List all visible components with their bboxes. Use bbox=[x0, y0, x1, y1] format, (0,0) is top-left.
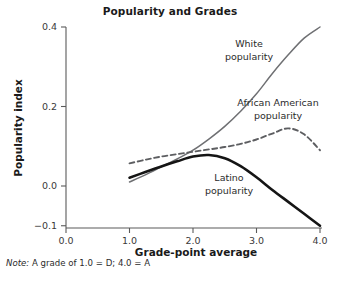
x-tick-group: 0.01.02.03.04.0 bbox=[58, 228, 327, 246]
x-tick-label: 2.0 bbox=[185, 235, 200, 246]
y-axis-title: Popularity index bbox=[12, 79, 24, 177]
series-label-latino-line1: Latino bbox=[214, 172, 243, 183]
chart-note: Note: A grade of 1.0 = D; 4.0 = A bbox=[6, 258, 150, 268]
x-tick-label: 4.0 bbox=[312, 235, 327, 246]
series-label-latino-line2: popularity bbox=[205, 185, 254, 196]
chart-note-prefix: Note: bbox=[6, 258, 29, 268]
y-tick-label: 0.0 bbox=[42, 180, 57, 191]
chart-figure: Popularity and Grades 0.40.20.0−0.1 0.01… bbox=[0, 0, 340, 285]
series-label-african-american-line2: popularity bbox=[254, 110, 303, 121]
series-label-white-line1: White bbox=[235, 38, 263, 49]
x-tick-label: 0.0 bbox=[58, 235, 73, 246]
chart-plot-area: 0.40.20.0−0.1 0.01.02.03.04.0 Popularity… bbox=[0, 0, 340, 285]
chart-note-text: A grade of 1.0 = D; 4.0 = A bbox=[29, 258, 150, 268]
y-tick-label: −0.1 bbox=[34, 220, 57, 231]
x-axis-title: Grade-point average bbox=[135, 246, 257, 258]
y-tick-label: 0.4 bbox=[42, 21, 57, 32]
y-tick-group: 0.40.20.0−0.1 bbox=[34, 21, 66, 231]
series-label-african-american-line1: African American bbox=[237, 97, 318, 108]
x-tick-label: 3.0 bbox=[249, 235, 264, 246]
bottom-bleed-text bbox=[44, 279, 84, 285]
y-tick-label: 0.2 bbox=[42, 101, 57, 112]
series-label-white-line2: popularity bbox=[225, 51, 274, 62]
x-tick-label: 1.0 bbox=[122, 235, 137, 246]
